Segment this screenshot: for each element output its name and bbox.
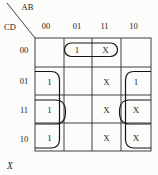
- column-variable-label: AB: [22, 2, 34, 12]
- cell-r0c2: X: [102, 45, 109, 55]
- group-loop-top-oval: [65, 43, 118, 57]
- cell-r3c3: X: [133, 133, 140, 143]
- row-header-00: 00: [20, 45, 29, 55]
- column-header-11: 11: [100, 21, 108, 31]
- row-header-01: 01: [20, 76, 29, 86]
- row-header-11: 11: [20, 105, 28, 115]
- column-header-00: 00: [42, 21, 51, 31]
- cell-r3c2: X: [103, 133, 110, 143]
- footer-label: X: [6, 161, 14, 171]
- cell-r0c1: 1: [75, 45, 80, 55]
- kmap-svg: AB CD 00 01 11 10 00 01 11 10 1 X 1: [0, 0, 158, 175]
- column-header-01: 01: [73, 21, 82, 31]
- cell-r2c3: X: [133, 105, 140, 115]
- cell-r2c0: 1: [47, 105, 52, 115]
- kmap-figure: AB CD 00 01 11 10 00 01 11 10 1 X 1: [0, 0, 158, 175]
- cell-r1c0: 1: [47, 77, 52, 87]
- cell-r2c2: X: [103, 105, 110, 115]
- column-header-10: 10: [129, 21, 138, 31]
- cell-r1c2: X: [103, 77, 110, 87]
- row-header-10: 10: [20, 134, 29, 144]
- cell-r3c0: 1: [47, 133, 52, 143]
- row-variable-label: CD: [4, 22, 16, 32]
- cell-r1c3: 1: [134, 77, 139, 87]
